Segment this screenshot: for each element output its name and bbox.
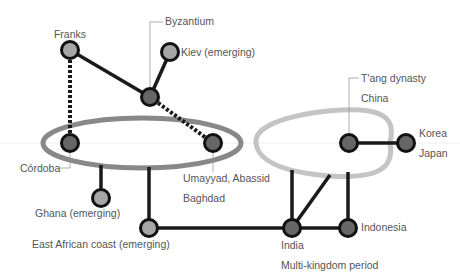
- label-franks: Franks: [54, 28, 86, 40]
- label-india: Multi-kingdom period: [281, 259, 379, 271]
- world-network-diagram: FranksKiev (emerging)ByzantiumCórdobaUma…: [0, 0, 460, 278]
- label-kiev: Kiev (emerging): [181, 46, 255, 58]
- node-korea-japan[interactable]: [398, 135, 415, 152]
- diagram-canvas: FranksKiev (emerging)ByzantiumCórdobaUma…: [0, 0, 460, 278]
- label-korea-japan: Korea: [419, 127, 447, 139]
- node-ghana[interactable]: [93, 190, 110, 207]
- label-byzantium: Byzantium: [165, 15, 214, 27]
- node-kiev[interactable]: [162, 44, 179, 61]
- china-leader: [349, 78, 359, 136]
- label-baghdad: Baghdad: [183, 192, 225, 204]
- node-baghdad[interactable]: [205, 135, 222, 152]
- label-india: India: [281, 239, 304, 251]
- node-franks[interactable]: [62, 42, 79, 59]
- label-china: T'ang dynasty: [361, 72, 427, 84]
- label-ghana: Ghana (emerging): [35, 207, 120, 219]
- node-indonesia[interactable]: [340, 220, 357, 237]
- label-east-africa: East African coast (emerging): [32, 238, 170, 250]
- label-china: China: [361, 92, 389, 104]
- label-cordoba: Córdoba: [20, 162, 60, 174]
- label-korea-japan: Japan: [419, 147, 448, 159]
- node-china[interactable]: [341, 135, 358, 152]
- node-byzantium[interactable]: [142, 89, 159, 106]
- label-baghdad: Umayyad, Abassid: [183, 172, 270, 184]
- node-east-africa[interactable]: [141, 220, 158, 237]
- node-india[interactable]: [284, 220, 301, 237]
- label-indonesia: Indonesia: [361, 221, 407, 233]
- edge-franks-byzantium: [70, 50, 150, 97]
- node-cordoba[interactable]: [62, 135, 79, 152]
